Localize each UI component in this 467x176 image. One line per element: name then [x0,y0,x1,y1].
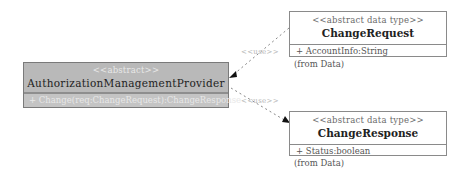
class-header: <<abstract data type>> ChangeRequest [290,12,446,44]
package-note: (from Data) [294,158,344,168]
package-note: (from Data) [294,59,344,69]
arrowhead-icon [229,71,237,78]
class-name: AuthorizationManagementProvider [24,76,228,90]
class-header: <<abstract>> AuthorizationManagementProv… [24,63,228,92]
class-change-request[interactable]: <<abstract data type>> ChangeRequest + A… [289,11,447,57]
stereotype: <<abstract>> [24,65,228,76]
class-name: ChangeResponse [290,126,446,140]
attribute: + Status:boolean [290,144,446,157]
class-change-response[interactable]: <<abstract data type>> ChangeResponse + … [289,111,447,156]
class-header: <<abstract data type>> ChangeResponse [290,112,446,144]
class-name: ChangeRequest [290,26,446,40]
use-label: <<use>> [241,48,279,56]
stereotype: <<abstract data type>> [290,15,446,26]
use-label: <<use>> [241,97,279,105]
stereotype: <<abstract data type>> [290,115,446,126]
attribute: + AccountInfo:String [290,44,446,57]
class-authorization-management-provider[interactable]: <<abstract>> AuthorizationManagementProv… [23,62,229,108]
operation: + Change(req:ChangeRequest):ChangeRespon… [24,92,228,107]
